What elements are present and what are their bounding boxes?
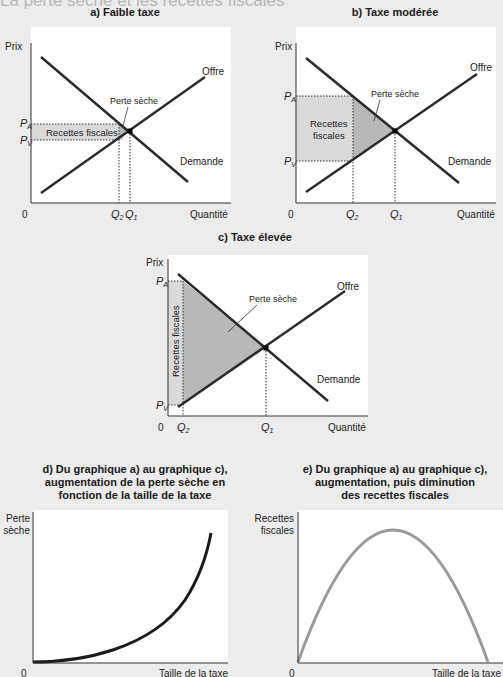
origin-label: 0 [158, 422, 164, 433]
x-axis-label: Quantité [457, 209, 495, 220]
x-axis-label: Taille de la taxe [159, 668, 228, 677]
plot-area [33, 510, 228, 663]
q1-label: Q1 [125, 208, 138, 221]
x-axis-label: Quantité [190, 209, 228, 220]
pv-label: PV [156, 399, 169, 412]
q2-label: Q2 [177, 421, 190, 434]
y-axis-label: Prix [275, 41, 292, 52]
equilibrium-point [264, 346, 269, 351]
q1-label: Q1 [390, 208, 403, 221]
plot-area [298, 510, 503, 663]
supply-label: Offre [337, 281, 359, 292]
chart-c: Prix PA PV Recettes fiscales Perte sèche… [146, 255, 368, 434]
equilibrium-point [393, 129, 398, 134]
y-axis-label-line2: fiscales [261, 525, 294, 536]
revenue-label-line1: Recettes [310, 118, 348, 129]
chart-d: Perte sèche 0 Taille de la taxe [3, 510, 228, 677]
y-axis-label: Prix [146, 257, 163, 268]
equilibrium-point [128, 129, 133, 134]
deadweight-label: Perte sèche [110, 96, 158, 106]
supply-label: Offre [470, 62, 492, 73]
x-axis-label: Taille de la taxe [432, 668, 501, 677]
pa-label: PA [156, 275, 168, 288]
origin-label: 0 [22, 209, 28, 220]
origin-label: 0 [21, 668, 27, 677]
pa-label: PA [20, 117, 32, 130]
y-axis-label-line2: sèche [3, 525, 30, 536]
deadweight-label: Perte sèche [371, 89, 419, 99]
supply-label: Offre [202, 66, 224, 77]
chart-e: Recettes fiscales 0 Taille de la taxe [255, 510, 503, 677]
pa-label: PA [284, 90, 296, 103]
diagram-canvas: Prix PA PV Recettes fiscales Perte sèche… [0, 0, 503, 677]
deadweight-label: Perte sèche [249, 294, 297, 304]
y-axis-label-line1: Recettes [255, 513, 294, 524]
revenue-label: Recettes fiscales [46, 127, 118, 138]
demand-label: Demande [180, 156, 224, 167]
origin-label: 0 [289, 668, 295, 677]
revenue-label-line2: fiscales [313, 130, 345, 141]
plot-area [31, 27, 231, 203]
pv-label: PV [284, 155, 297, 168]
origin-label: 0 [288, 209, 294, 220]
y-axis-label-line1: Perte [6, 513, 30, 524]
demand-label: Demande [317, 374, 361, 385]
q1-label: Q1 [261, 421, 274, 434]
q2-label: Q2 [346, 208, 359, 221]
y-axis-label: Prix [5, 41, 22, 52]
chart-b: Prix PA PV Recettes fiscales Perte sèche… [275, 27, 496, 221]
q2-label: Q2 [111, 208, 124, 221]
revenue-label: Recettes fiscales [170, 305, 181, 377]
chart-a: Prix PA PV Recettes fiscales Perte sèche… [5, 27, 231, 221]
demand-label: Demande [448, 156, 492, 167]
x-axis-label: Quantité [328, 422, 366, 433]
